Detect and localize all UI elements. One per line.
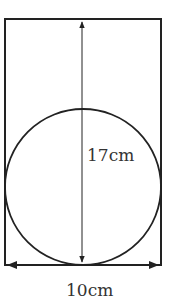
circle-shape [5, 109, 161, 265]
diagram-canvas: 17cm 10cm [0, 0, 178, 302]
width-label: 10cm [66, 280, 113, 300]
height-label: 17cm [87, 145, 134, 165]
rectangle-shape [5, 19, 161, 265]
